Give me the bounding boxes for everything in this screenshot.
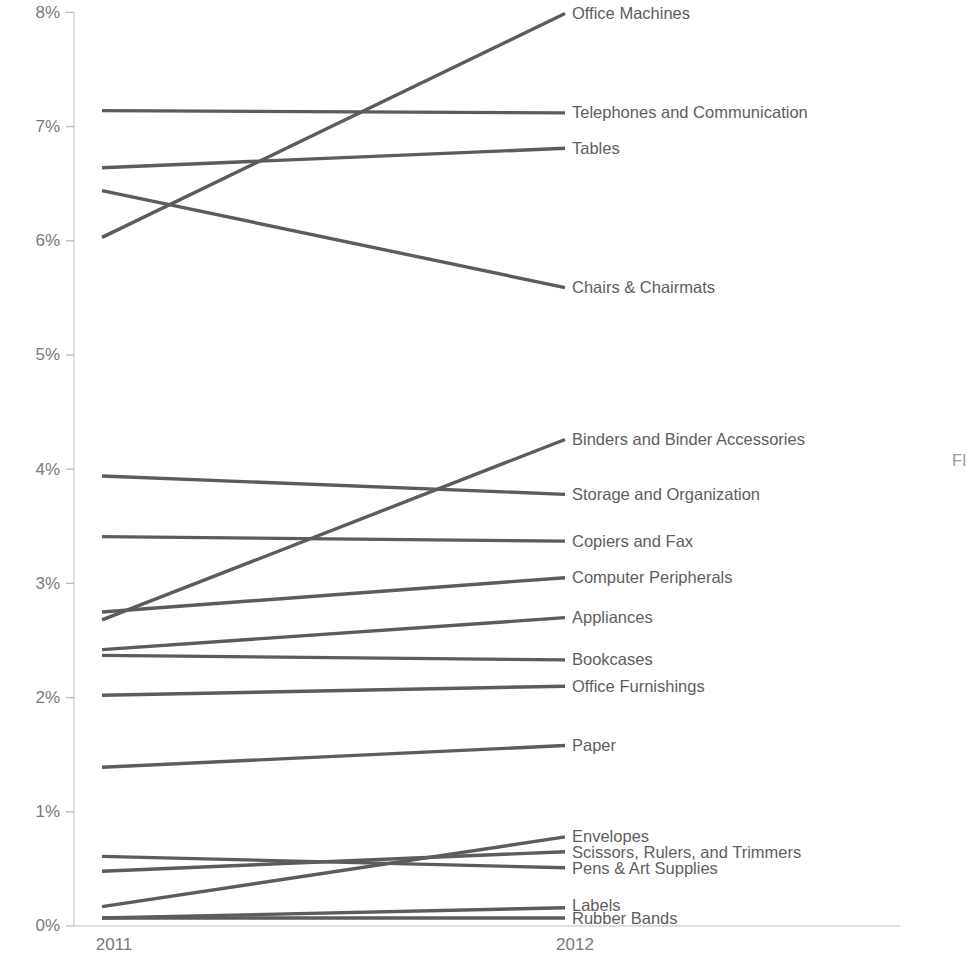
series-label: Tables (572, 139, 620, 157)
y-tick-label: 1% (35, 802, 60, 821)
series-label: Computer Peripherals (572, 568, 733, 586)
series-label: Office Furnishings (572, 677, 705, 695)
slope-line (102, 440, 565, 620)
series-label: Bookcases (572, 650, 653, 668)
x-tick-label: 2011 (96, 935, 133, 954)
y-tick-label: 5% (35, 345, 60, 364)
y-tick-label: 6% (35, 231, 60, 250)
series-labels: Office MachinesTelephones and Communicat… (572, 4, 808, 927)
y-tick-label: 7% (35, 117, 60, 136)
slope-line (102, 148, 565, 167)
series-label: Binders and Binder Accessories (572, 430, 805, 448)
series-label: Pens & Art Supplies (572, 859, 718, 877)
slope-line (102, 837, 565, 907)
series-label: Copiers and Fax (572, 532, 694, 550)
slope-line (102, 578, 565, 612)
slope-line (102, 476, 565, 494)
y-tick-label: 3% (35, 574, 60, 593)
slope-chart-svg: 0%1%2%3%4%5%6%7%8% 20112012 Office Machi… (0, 0, 976, 960)
series-label: Paper (572, 736, 617, 754)
x-tick-label: 2012 (556, 935, 594, 954)
series-lines (102, 14, 565, 918)
slope-line (102, 655, 565, 660)
slope-chart-canvas: 0%1%2%3%4%5%6%7%8% 20112012 Office Machi… (0, 0, 976, 960)
y-tick-label: 2% (35, 688, 60, 707)
y-axis: 0%1%2%3%4%5%6%7%8% (35, 3, 74, 936)
series-label: Office Machines (572, 4, 690, 22)
series-label: Scissors, Rulers, and Trimmers (572, 843, 801, 861)
y-tick-label: 4% (35, 460, 60, 479)
slope-line (102, 856, 565, 867)
y-tick-label: 0% (35, 916, 60, 935)
series-label: Rubber Bands (572, 909, 678, 927)
x-axis: 20112012 (74, 926, 900, 954)
slope-line (102, 686, 565, 695)
series-label: Appliances (572, 608, 653, 626)
slope-line (102, 746, 565, 768)
y-tick-label: 8% (35, 3, 60, 22)
series-label: Storage and Organization (572, 485, 760, 503)
slope-line (102, 191, 565, 288)
slope-line (102, 618, 565, 650)
series-label: Telephones and Communication (572, 103, 808, 121)
slope-line (102, 111, 565, 113)
series-label: Chairs & Chairmats (572, 278, 715, 296)
corner-truncated-text: FI (952, 451, 967, 469)
slope-line (102, 537, 565, 542)
